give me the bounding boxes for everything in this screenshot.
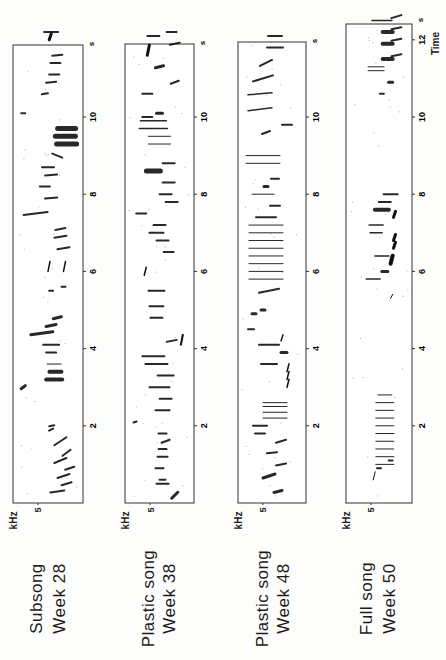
time-axis-label: Time: [430, 29, 441, 59]
panel-title-1: Subsong: [28, 559, 45, 639]
panel-title-4: Full song: [358, 559, 375, 639]
spectrogram-panel-3: 246810s: [238, 36, 321, 505]
time-tick-label: 4: [199, 346, 209, 351]
spectrogram-panel-1: 246810s: [13, 32, 98, 505]
panel-title-2: Plastic song: [140, 549, 157, 649]
time-unit-label: s: [198, 40, 207, 45]
spectrogram-panel-4: 24681012s: [346, 15, 427, 505]
time-tick-label: 2: [417, 423, 427, 428]
freq-axis-label-3: kHz: [233, 509, 244, 533]
time-tick-label: 4: [311, 346, 321, 351]
time-tick-label: 2: [311, 423, 321, 428]
freq-tick-3: 5: [258, 505, 268, 515]
time-tick-label: 6: [199, 269, 209, 274]
time-tick-label: 6: [88, 269, 98, 274]
time-tick-label: 8: [417, 192, 427, 197]
time-tick-label: 10: [88, 112, 98, 122]
time-tick-label: 10: [311, 112, 321, 122]
panel-week-3: Week 48: [275, 559, 292, 639]
time-tick-label: 4: [88, 346, 98, 351]
time-tick-label: 8: [199, 192, 209, 197]
time-tick-label: 8: [88, 192, 98, 197]
time-tick-label: 12: [417, 35, 427, 45]
time-tick-label: 8: [311, 192, 321, 197]
freq-axis-label-4: kHz: [341, 509, 352, 533]
time-tick-label: 2: [199, 423, 209, 428]
panel-title-3: Plastic song: [254, 549, 271, 649]
time-tick-label: 10: [199, 112, 209, 122]
time-tick-label: 4: [417, 346, 427, 351]
freq-axis-label-1: kHz: [8, 509, 19, 533]
freq-tick-1: 5: [33, 505, 43, 515]
panel-week-1: Week 28: [51, 559, 68, 639]
time-tick-label: 6: [417, 269, 427, 274]
time-unit-label: s: [87, 41, 96, 46]
spectrogram-panel-2: 246810s: [125, 32, 209, 505]
freq-tick-2: 5: [146, 505, 156, 515]
freq-tick-4: 5: [366, 505, 376, 515]
time-tick-label: 2: [88, 423, 98, 428]
panel-week-4: Week 50: [381, 559, 398, 639]
time-tick-label: 10: [417, 112, 427, 122]
freq-axis-label-2: kHz: [120, 509, 131, 533]
time-unit-label: s: [416, 17, 425, 22]
time-unit-label: s: [310, 38, 319, 43]
time-tick-label: 6: [311, 269, 321, 274]
panel-week-2: Week 38: [161, 559, 178, 639]
